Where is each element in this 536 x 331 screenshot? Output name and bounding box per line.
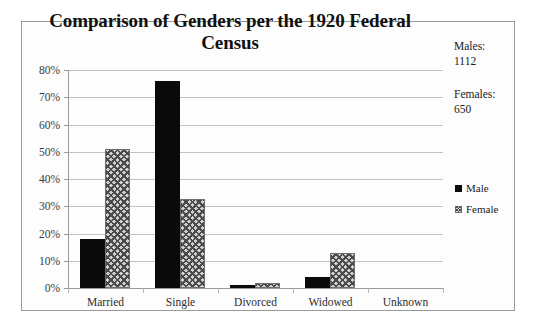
annotation-females: Females: 650 <box>454 87 496 118</box>
y-axis-tick <box>64 70 68 71</box>
x-axis-tick <box>293 288 294 293</box>
legend-item-female: Female <box>455 203 498 215</box>
y-axis-tick-label: 20% <box>39 228 60 240</box>
y-axis-tick <box>64 179 68 180</box>
x-axis-category-label: Married <box>87 296 124 308</box>
x-axis-tick <box>218 288 219 293</box>
legend-swatch-male-icon <box>455 185 462 192</box>
y-axis-tick <box>64 206 68 207</box>
bar-married-male <box>80 239 105 288</box>
y-axis-tick-label: 10% <box>39 255 60 267</box>
y-axis-line <box>68 70 69 288</box>
y-axis-tick <box>64 97 68 98</box>
y-axis-tick <box>64 261 68 262</box>
legend-swatch-female-icon <box>455 206 462 213</box>
y-axis-tick-label: 40% <box>39 173 60 185</box>
y-axis-tick <box>64 125 68 126</box>
x-axis-category-label: Widowed <box>308 296 352 308</box>
y-axis-tick <box>64 234 68 235</box>
x-axis-category-label: Unknown <box>383 296 428 308</box>
chart-legend: MaleFemale <box>455 182 498 224</box>
gridline <box>68 125 443 126</box>
x-axis-line <box>68 288 443 289</box>
gridline <box>68 70 443 71</box>
x-axis-tick <box>68 288 69 293</box>
x-axis-tick <box>443 288 444 293</box>
x-axis-tick <box>368 288 369 293</box>
y-axis-tick-label: 70% <box>39 91 60 103</box>
plot-area: 80%70%60%50%40%30%20%10%0% MarriedSingle… <box>68 70 443 288</box>
bar-widowed-female <box>330 253 355 288</box>
y-axis-tick <box>64 152 68 153</box>
bar-single-female <box>180 199 205 288</box>
y-axis-tick-label: 60% <box>39 119 60 131</box>
legend-label: Female <box>466 203 498 215</box>
bar-divorced-male <box>230 285 255 288</box>
chart-title: Comparison of Genders per the 1920 Feder… <box>40 10 420 54</box>
y-axis-tick-label: 50% <box>39 146 60 158</box>
y-axis-tick-label: 80% <box>39 64 60 76</box>
bar-widowed-male <box>305 277 330 288</box>
legend-label: Male <box>466 182 489 194</box>
y-axis-tick-label: 30% <box>39 200 60 212</box>
x-axis-category-label: Single <box>166 296 195 308</box>
bar-single-male <box>155 81 180 288</box>
chart-screenshot: Comparison of Genders per the 1920 Feder… <box>0 0 536 331</box>
x-axis-category-label: Divorced <box>234 296 277 308</box>
bar-divorced-female <box>255 283 280 288</box>
bar-married-female <box>105 149 130 288</box>
legend-item-male: Male <box>455 182 498 194</box>
x-axis-tick <box>143 288 144 293</box>
y-axis-tick-label: 0% <box>45 282 60 294</box>
gridline <box>68 97 443 98</box>
annotation-males: Males: 1112 <box>454 39 485 70</box>
